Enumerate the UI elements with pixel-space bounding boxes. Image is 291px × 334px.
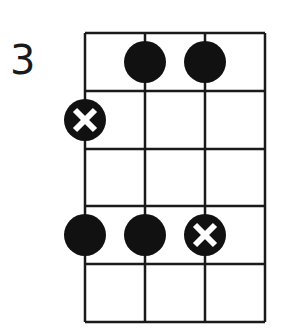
finger-dot-icon	[184, 41, 226, 83]
finger-dot-icon	[124, 41, 166, 83]
fretboard-grid	[0, 0, 291, 334]
grid-lines	[85, 33, 265, 322]
finger-dot-icon	[64, 214, 106, 256]
finger-dot-icon	[124, 214, 166, 256]
